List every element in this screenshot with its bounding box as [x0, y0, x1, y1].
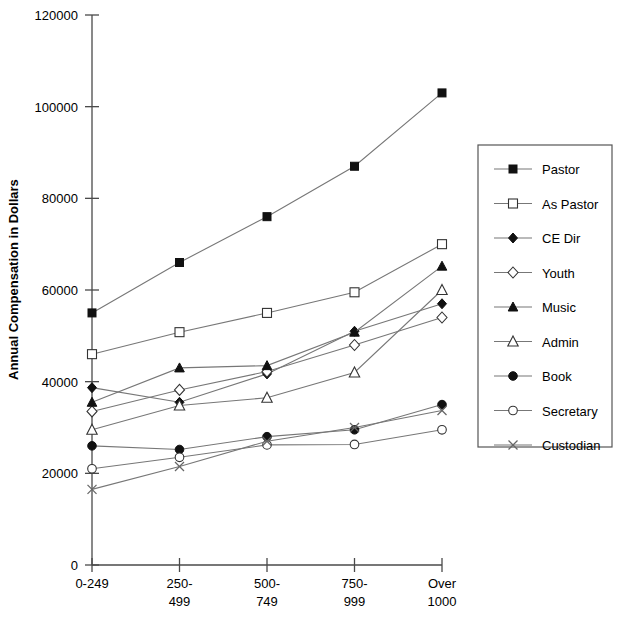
legend-item-pastor[interactable]: Pastor: [494, 162, 580, 177]
y-axis-ticks: 020000400006000080000100000120000: [35, 8, 99, 573]
series-path: [92, 411, 442, 490]
x-tick-label: Over: [428, 576, 457, 591]
y-tick-label: 40000: [42, 375, 78, 390]
data-point-marker: [350, 440, 359, 449]
data-point-marker: [438, 240, 447, 249]
legend-item-youth[interactable]: Youth: [494, 266, 575, 281]
y-tick-label: 80000: [42, 191, 78, 206]
data-point-marker: [175, 328, 184, 337]
data-point-marker: [438, 89, 446, 97]
legend-frame: [478, 145, 612, 447]
chart-legend: PastorAs PastorCE DirYouthMusicAdminBook…: [478, 145, 612, 453]
data-point-marker: [263, 213, 271, 221]
data-point-marker: [88, 350, 97, 359]
series-admin: [87, 285, 447, 435]
data-point-marker: [438, 299, 447, 309]
legend-marker-icon: [509, 406, 518, 415]
y-axis-title-label: Annual Compensation in Dollars: [6, 179, 21, 380]
legend-item-secretary[interactable]: Secretary: [494, 404, 598, 419]
legend-marker-icon: [509, 372, 518, 381]
y-tick-label: 20000: [42, 466, 78, 481]
y-tick-label: 120000: [35, 8, 78, 23]
data-point-marker: [262, 361, 272, 370]
series-layer: [87, 89, 447, 494]
data-point-marker: [176, 259, 184, 267]
data-point-marker: [263, 308, 272, 317]
x-tick-label: 500-: [254, 576, 280, 591]
data-point-marker: [437, 261, 447, 270]
legend-marker-icon: [509, 199, 518, 208]
x-axis-ticks: 0-249250-499500-749750-999Over1000: [75, 558, 456, 609]
legend-marker-icon: [509, 165, 517, 173]
legend-item-ce-dir[interactable]: CE Dir: [494, 231, 581, 246]
x-tick-label: 999: [344, 594, 366, 609]
legend-item-label: Music: [542, 300, 576, 315]
legend-item-as-pastor[interactable]: As Pastor: [494, 197, 599, 212]
legend-item-label: Book: [542, 369, 572, 384]
x-tick-label: 1000: [428, 594, 457, 609]
series-path: [92, 244, 442, 354]
data-point-marker: [175, 462, 184, 471]
series-as-pastor: [88, 240, 447, 359]
series-music: [87, 261, 447, 406]
y-tick-label: 0: [71, 558, 78, 573]
data-point-marker: [350, 288, 359, 297]
data-point-marker: [88, 383, 97, 393]
y-tick-label: 60000: [42, 283, 78, 298]
legend-entries: PastorAs PastorCE DirYouthMusicAdminBook…: [494, 162, 601, 453]
legend-marker-icon: [508, 267, 518, 278]
data-point-marker: [175, 453, 184, 462]
legend-item-label: Youth: [542, 266, 575, 281]
legend-item-label: Secretary: [542, 404, 598, 419]
y-axis-title: Annual Compensation in Dollars: [6, 179, 21, 380]
series-path: [92, 304, 442, 403]
chart-container: Annual Compensation in Dollars 020000400…: [0, 0, 624, 623]
x-tick-label: 250-: [166, 576, 192, 591]
data-point-marker: [351, 162, 359, 170]
x-tick-label: 749: [256, 594, 278, 609]
x-tick-label: 0-249: [75, 576, 108, 591]
data-point-marker: [175, 384, 185, 395]
data-point-marker: [437, 312, 447, 323]
series-pastor: [88, 89, 446, 317]
line-chart: Annual Compensation in Dollars 020000400…: [0, 0, 624, 623]
series-path: [92, 93, 442, 313]
data-point-marker: [438, 425, 447, 434]
data-point-marker: [88, 464, 97, 473]
data-point-marker: [88, 442, 97, 451]
data-point-marker: [263, 432, 272, 441]
legend-item-admin[interactable]: Admin: [494, 335, 579, 350]
data-point-marker: [88, 309, 96, 317]
y-tick-label: 100000: [35, 100, 78, 115]
x-tick-label: 750-: [341, 576, 367, 591]
x-tick-label: 499: [169, 594, 191, 609]
legend-item-label: As Pastor: [542, 197, 599, 212]
legend-item-label: Admin: [542, 335, 579, 350]
legend-item-custodian[interactable]: Custodian: [494, 438, 601, 453]
legend-item-music[interactable]: Music: [494, 300, 576, 315]
data-point-marker: [437, 285, 447, 295]
legend-item-label: CE Dir: [542, 231, 581, 246]
legend-item-label: Custodian: [542, 438, 601, 453]
legend-item-label: Pastor: [542, 162, 580, 177]
legend-item-book[interactable]: Book: [494, 369, 572, 384]
data-point-marker: [87, 397, 97, 406]
legend-marker-icon: [509, 233, 518, 243]
data-point-marker: [87, 406, 97, 417]
data-point-marker: [350, 340, 360, 351]
